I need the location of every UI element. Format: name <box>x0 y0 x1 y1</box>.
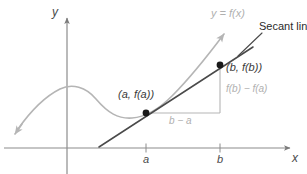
point-b-marker <box>217 62 224 69</box>
point-b-label: (b, f(b)) <box>226 62 262 73</box>
curve-function-label: y = f(x) <box>211 8 245 19</box>
function-curve <box>18 34 224 129</box>
marked-points-group <box>143 62 224 117</box>
y-axis-label: y <box>52 6 58 18</box>
secant-label-leader <box>238 33 262 56</box>
function-curve-group <box>15 34 224 134</box>
point-a-marker <box>143 110 150 117</box>
secant-line-label: Secant line <box>259 21 307 32</box>
run-difference-label: b − a <box>169 116 192 126</box>
guide-segments-group <box>146 65 220 113</box>
point-a-label: (a, f(a)) <box>118 89 154 100</box>
secant-line-figure: y x a b y = f(x) Secant line (a, f(a)) (… <box>0 0 307 174</box>
rise-difference-label: f(b) − f(a) <box>226 84 267 94</box>
tick-label-a: a <box>143 154 149 165</box>
curve-left-arrow <box>15 124 22 134</box>
tick-label-b: b <box>217 154 223 165</box>
x-axis-label: x <box>292 152 298 164</box>
